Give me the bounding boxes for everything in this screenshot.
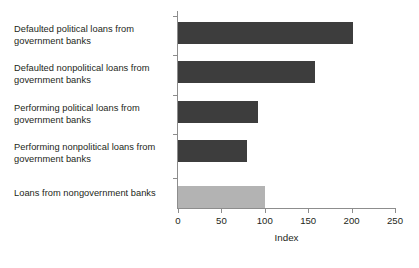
bar-3 [178, 140, 247, 162]
category-label-1-line-1: government banks [14, 74, 172, 86]
x-axis-tick-0 [178, 208, 179, 213]
x-axis-tick-label-1: 50 [216, 215, 227, 226]
category-label-4: Loans from nongovernment banks [14, 187, 172, 199]
category-label-0: Defaulted political loans from governmen… [14, 23, 172, 47]
x-axis-tick-3 [308, 208, 309, 213]
bar-2 [178, 101, 258, 123]
category-label-1: Defaulted nonpolitical loans from govern… [14, 62, 172, 86]
bar-chart: Defaulted political loans from governmen… [0, 0, 419, 268]
x-axis-title: Index [178, 232, 395, 243]
category-label-1-line-0: Defaulted nonpolitical loans from [14, 62, 172, 74]
x-axis-tick-1 [221, 208, 222, 213]
category-label-2-line-0: Performing political loans from [14, 102, 172, 114]
bar-1 [178, 61, 315, 83]
x-axis-tick-label-0: 0 [175, 215, 180, 226]
bar-0 [178, 22, 353, 44]
plot-area: 050100150200250 [178, 11, 395, 207]
y-axis-tick-4 [173, 178, 178, 179]
category-label-3-line-0: Performing nonpolitical loans from [14, 141, 172, 153]
category-label-0-line-1: government banks [14, 35, 172, 47]
category-label-2-line-1: government banks [14, 114, 172, 126]
category-label-2: Performing political loans from governme… [14, 102, 172, 126]
x-axis-tick-5 [395, 208, 396, 213]
x-axis-tick-label-3: 150 [300, 215, 316, 226]
x-axis-tick-4 [352, 208, 353, 213]
category-label-0-line-0: Defaulted political loans from [14, 23, 172, 35]
y-axis-tick-2 [173, 95, 178, 96]
x-axis-line [177, 208, 395, 209]
category-axis-labels: Defaulted political loans from governmen… [0, 11, 172, 207]
y-axis-tick-0 [173, 16, 178, 17]
y-axis-tick-1 [173, 55, 178, 56]
bar-4 [178, 186, 265, 208]
y-axis-tick-3 [173, 134, 178, 135]
category-label-3: Performing nonpolitical loans from gover… [14, 141, 172, 165]
category-label-4-line-0: Loans from nongovernment banks [14, 187, 172, 199]
x-axis-tick-label-2: 100 [257, 215, 273, 226]
x-axis-tick-2 [265, 208, 266, 213]
x-axis-tick-label-5: 250 [387, 215, 403, 226]
x-axis-tick-label-4: 200 [344, 215, 360, 226]
category-label-3-line-1: government banks [14, 153, 172, 165]
